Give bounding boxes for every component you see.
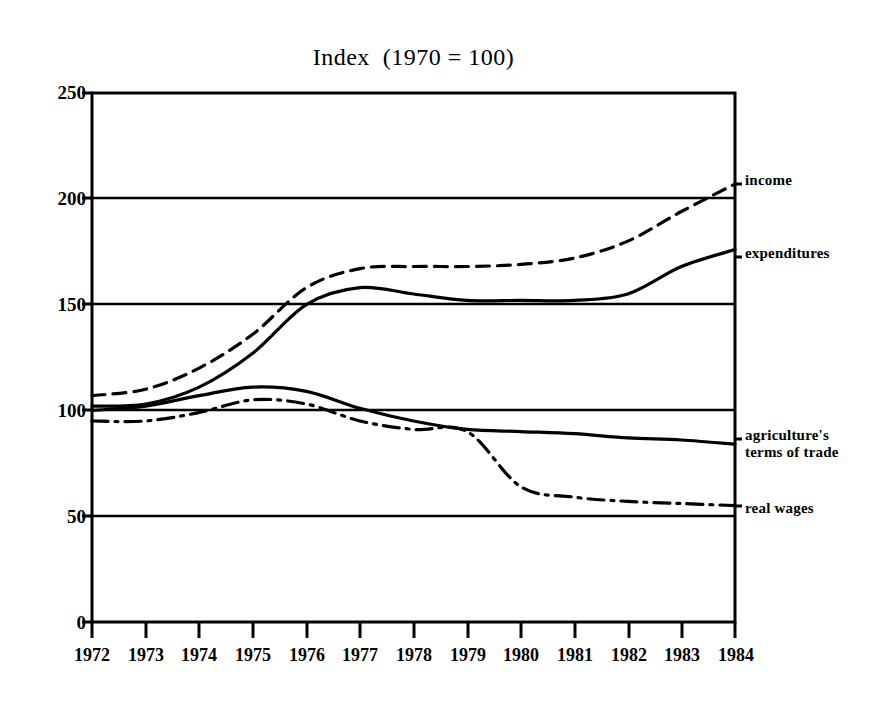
axes-frame [92,93,735,622]
series-line-expenditures [92,250,735,407]
series-line-real-wages [92,399,735,505]
x-axis-ticks [92,622,735,638]
gridlines [92,198,735,516]
chart-figure: Index (1970 = 100) 250 200 150 100 50 0 … [0,0,887,703]
series-line-agriculture-s-terms-of-trade [92,387,735,444]
data-series-group [92,184,735,506]
plot-canvas [0,0,887,703]
